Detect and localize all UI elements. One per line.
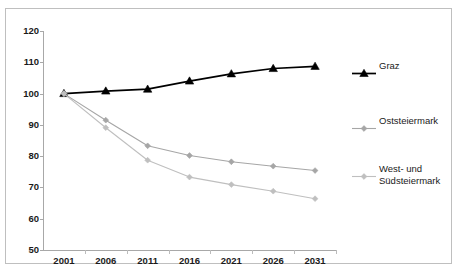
legend-marker-icon	[352, 167, 376, 176]
y-tick-mark	[40, 219, 44, 220]
x-tick-label: 2026	[251, 255, 295, 266]
y-tick-label: 80	[3, 151, 39, 161]
x-tick-label: 2021	[209, 255, 253, 266]
x-tick-mark	[336, 250, 337, 254]
x-tick-mark	[252, 250, 253, 254]
y-tick-mark	[40, 125, 44, 126]
x-axis-line	[43, 250, 336, 251]
x-tick-label: 2011	[126, 255, 170, 266]
y-axis-line	[43, 31, 44, 251]
x-tick-label: 2016	[168, 255, 212, 266]
chart-figure: 1201101009080706050 20012006201120162021…	[0, 0, 458, 273]
x-tick-mark	[85, 250, 86, 254]
y-tick-mark	[40, 94, 44, 95]
chart-outer-frame	[5, 8, 452, 264]
y-tick-label: 120	[3, 26, 39, 36]
legend-label: West- und Südsteiermark	[379, 163, 440, 186]
legend-label: Oststeiermark	[379, 115, 438, 127]
x-tick-mark	[294, 250, 295, 254]
y-tick-mark	[40, 31, 44, 32]
chart-title-remnant	[168, 0, 288, 7]
y-tick-label: 70	[3, 182, 39, 192]
x-tick-label: 2031	[293, 255, 337, 266]
y-tick-mark	[40, 187, 44, 188]
y-tick-mark	[40, 62, 44, 63]
y-tick-label: 60	[3, 214, 39, 224]
legend-marker-icon	[352, 64, 376, 73]
x-tick-label: 2001	[42, 255, 86, 266]
legend-label: Graz	[379, 60, 400, 72]
y-tick-mark	[40, 156, 44, 157]
x-tick-mark	[169, 250, 170, 254]
legend-marker-icon	[352, 119, 376, 128]
y-tick-mark	[40, 250, 44, 251]
y-tick-label: 100	[3, 89, 39, 99]
y-tick-label: 110	[3, 57, 39, 67]
x-tick-mark	[210, 250, 211, 254]
y-tick-label: 90	[3, 120, 39, 130]
x-tick-label: 2006	[84, 255, 128, 266]
x-tick-mark	[127, 250, 128, 254]
y-tick-label: 50	[3, 245, 39, 255]
